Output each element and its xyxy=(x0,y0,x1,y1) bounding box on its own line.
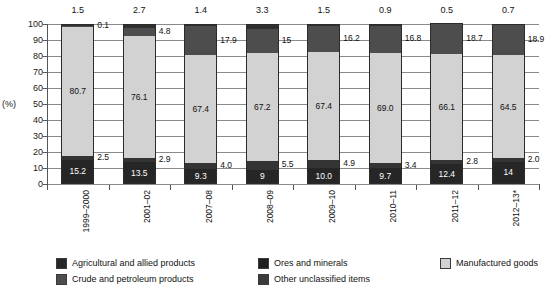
bar-column[interactable]: 67.410.0 xyxy=(307,24,340,184)
x-tick-mark xyxy=(170,185,171,190)
segment-value-label: 67.2 xyxy=(247,103,278,112)
y-tick-label: 90 xyxy=(19,36,43,44)
y-tick-mark xyxy=(43,168,48,169)
legend-swatch xyxy=(258,274,269,285)
ores-value-callout: 2.0 xyxy=(528,155,540,164)
y-tick-mark xyxy=(43,40,48,41)
gridline xyxy=(47,24,539,25)
segment-value-label: 80.7 xyxy=(62,87,93,96)
bar-column[interactable]: 64.514 xyxy=(492,24,525,184)
segment-value-label: 64.5 xyxy=(493,102,524,111)
bar-segment[interactable]: 67.4 xyxy=(307,52,340,160)
gridline xyxy=(47,152,539,153)
crude-value-callout: 18.9 xyxy=(528,35,545,44)
legend-swatch xyxy=(440,258,451,269)
legend-item[interactable]: Agricultural and allied products xyxy=(56,258,195,270)
y-tick-mark xyxy=(43,72,48,73)
gridline xyxy=(47,136,539,137)
ores-value-callout: 5.5 xyxy=(282,160,294,169)
x-tick-mark xyxy=(355,185,356,190)
bar-segment[interactable] xyxy=(307,26,340,52)
bar-segment[interactable] xyxy=(123,28,156,36)
ores-value-callout: 3.4 xyxy=(405,161,417,170)
bar-column[interactable]: 80.715.2 xyxy=(61,24,94,184)
bar-segment[interactable]: 67.2 xyxy=(246,53,279,161)
y-tick-label: 40 xyxy=(19,116,43,124)
segment-value-label: 67.4 xyxy=(308,102,339,111)
x-tick-mark xyxy=(478,185,479,190)
x-tick-mark xyxy=(109,185,110,190)
bar-segment[interactable]: 76.1 xyxy=(123,36,156,158)
chart-legend: Agricultural and allied productsCrude an… xyxy=(0,256,560,296)
legend-item[interactable]: Other unclassified items xyxy=(258,274,370,286)
bar-column[interactable]: 67.49.3 xyxy=(184,24,217,184)
ores-value-callout: 4.0 xyxy=(220,161,232,170)
legend-item[interactable]: Ores and minerals xyxy=(258,258,348,270)
legend-item[interactable]: Crude and petroleum products xyxy=(56,274,194,286)
bar-segment[interactable]: 80.7 xyxy=(61,27,94,156)
y-tick-mark xyxy=(43,152,48,153)
segment-value-label: 14 xyxy=(493,168,524,177)
y-tick-mark xyxy=(43,56,48,57)
other-value-toplabel: 1.5 xyxy=(307,5,340,15)
bar-segment[interactable] xyxy=(246,161,279,170)
gridline xyxy=(47,40,539,41)
ores-value-callout: 2.5 xyxy=(97,153,109,162)
bar-segment[interactable]: 69.0 xyxy=(369,53,402,163)
y-tick-label: 100 xyxy=(19,20,43,28)
ores-value-callout: 4.9 xyxy=(343,159,355,168)
y-axis-title: (%) xyxy=(2,99,16,109)
bar-column[interactable]: 67.29 xyxy=(246,24,279,184)
x-category-label: 2007–08 xyxy=(205,190,214,250)
y-tick-mark xyxy=(43,104,48,105)
bar-segment[interactable]: 9.3 xyxy=(184,169,217,184)
x-category-label: 2010–11 xyxy=(389,190,398,250)
bar-segment[interactable]: 10.0 xyxy=(307,168,340,184)
x-tick-mark xyxy=(539,185,540,190)
crude-value-callout: 18.7 xyxy=(466,34,483,43)
segment-value-label: 69.0 xyxy=(370,103,401,112)
bar-segment[interactable]: 14 xyxy=(492,162,525,184)
ores-value-callout: 2.8 xyxy=(466,157,478,166)
bar-segment[interactable]: 9.7 xyxy=(369,168,402,184)
y-tick-label: 0 xyxy=(19,180,43,188)
bar-column[interactable]: 66.112.4 xyxy=(430,23,463,184)
bar-column[interactable]: 76.113.5 xyxy=(123,24,156,184)
x-category-label: 1999–2000 xyxy=(82,190,91,250)
bar-segment[interactable]: 9 xyxy=(246,170,279,184)
legend-swatch xyxy=(56,274,67,285)
bar-segment[interactable] xyxy=(307,160,340,168)
bar-segment[interactable]: 12.4 xyxy=(430,164,463,184)
bar-segment[interactable] xyxy=(369,26,402,53)
y-tick-mark xyxy=(43,24,48,25)
bar-segment[interactable]: 64.5 xyxy=(492,55,525,158)
other-value-toplabel: 3.3 xyxy=(246,5,279,15)
segment-value-label: 13.5 xyxy=(124,168,155,177)
legend-label: Agricultural and allied products xyxy=(72,258,195,268)
segment-value-label: 12.4 xyxy=(431,169,462,178)
bar-column[interactable]: 69.09.7 xyxy=(369,24,402,184)
x-category-label: 2011–12 xyxy=(451,190,460,250)
y-tick-label: 10 xyxy=(19,164,43,172)
bar-segment[interactable] xyxy=(492,25,525,55)
y-tick-label: 30 xyxy=(19,132,43,140)
bar-segment[interactable] xyxy=(184,26,217,55)
segment-value-label: 67.4 xyxy=(185,104,216,113)
x-category-label: 2008–09 xyxy=(266,190,275,250)
crude-value-callout: 15 xyxy=(282,36,291,45)
y-tick-label: 50 xyxy=(19,100,43,108)
other-value-toplabel: 1.5 xyxy=(61,5,94,15)
bar-segment[interactable] xyxy=(430,24,463,54)
legend-item[interactable]: Manufactured goods xyxy=(440,258,538,270)
segment-value-label: 9 xyxy=(247,172,278,181)
bar-segment[interactable]: 13.5 xyxy=(123,162,156,184)
bar-segment[interactable]: 67.4 xyxy=(184,55,217,163)
legend-swatch xyxy=(56,258,67,269)
bar-segment[interactable]: 66.1 xyxy=(430,54,463,160)
bar-segment[interactable]: 15.2 xyxy=(61,160,94,184)
legend-label: Crude and petroleum products xyxy=(72,274,194,284)
gridline xyxy=(47,120,539,121)
crude-value-callout: 16.8 xyxy=(405,34,422,43)
other-value-toplabel: 0.9 xyxy=(369,5,402,15)
bar-segment[interactable] xyxy=(246,29,279,53)
